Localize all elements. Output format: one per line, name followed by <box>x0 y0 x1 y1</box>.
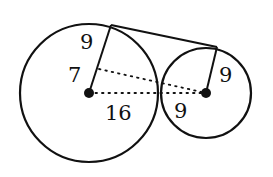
dotted-parallel-segment <box>99 69 206 93</box>
small-circle-radius <box>206 47 217 93</box>
label-center-distance-left: 16 <box>105 101 132 125</box>
two-circles-tangent-diagram: 9 7 16 9 9 <box>0 0 273 177</box>
label-center-distance-right: 9 <box>174 99 187 123</box>
small-center-point <box>201 88 211 98</box>
label-large-radius-lower: 7 <box>68 63 81 87</box>
label-small-radius: 9 <box>219 63 232 87</box>
large-center-point <box>84 88 94 98</box>
label-large-radius-upper: 9 <box>80 30 93 54</box>
